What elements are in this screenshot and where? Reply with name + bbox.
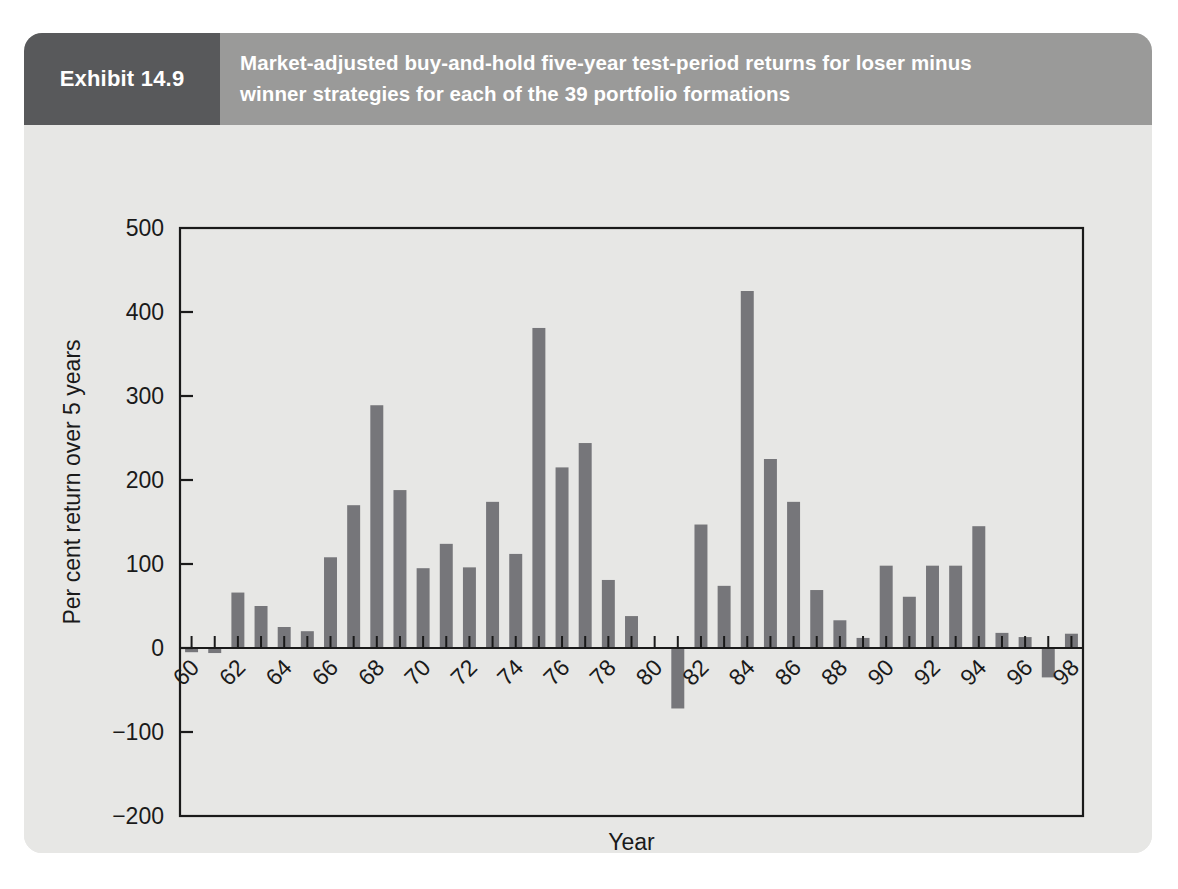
y-tick-label: 100 (126, 551, 164, 577)
x-tick-label-80: 80 (631, 654, 667, 690)
bar-92 (926, 566, 939, 648)
bar-86 (787, 502, 800, 648)
exhibit-title-line-1: Market-adjusted buy-and-hold five-year t… (240, 47, 1120, 78)
x-tick-label-62: 62 (214, 654, 250, 690)
x-tick-label-74: 74 (492, 654, 529, 691)
exhibit-header: Exhibit 14.9 Market-adjusted buy-and-hol… (24, 33, 1152, 125)
x-tick-label-90: 90 (862, 654, 898, 690)
bar-84 (741, 291, 754, 648)
bar-73 (486, 502, 499, 648)
x-tick-label-64: 64 (260, 654, 297, 691)
bar-71 (440, 544, 453, 648)
bar-82 (694, 525, 707, 648)
bar-67 (347, 505, 360, 648)
x-tick-label-68: 68 (353, 654, 389, 690)
bar-69 (393, 490, 406, 648)
exhibit-card: Exhibit 14.9 Market-adjusted buy-and-hol… (24, 33, 1152, 853)
x-tick-label-76: 76 (538, 654, 574, 690)
chart-svg: 5004003002001000−100−200 606264666870727… (24, 125, 1152, 853)
bar-94 (972, 526, 985, 648)
x-tick-label-78: 78 (584, 654, 620, 690)
bar-77 (579, 443, 592, 648)
bar-chart: 5004003002001000−100−200 606264666870727… (24, 125, 1152, 853)
bar-72 (463, 567, 476, 648)
bar-93 (949, 566, 962, 648)
bar-74 (509, 554, 522, 648)
exhibit-number-badge: Exhibit 14.9 (24, 33, 220, 125)
bar-85 (764, 459, 777, 648)
y-tick-label: −100 (112, 719, 164, 745)
exhibit-number-label: Exhibit 14.9 (60, 66, 185, 92)
x-tick-label-96: 96 (1001, 654, 1037, 690)
bar-90 (880, 566, 893, 648)
y-tick-label: 0 (151, 635, 164, 661)
y-tick-label: 500 (126, 215, 164, 241)
exhibit-title: Market-adjusted buy-and-hold five-year t… (240, 47, 1120, 109)
y-tick-label: −200 (112, 803, 164, 829)
chart-y-tick-labels: 5004003002001000−100−200 (112, 215, 164, 829)
x-tick-label-92: 92 (909, 654, 945, 690)
x-tick-label-84: 84 (723, 654, 760, 691)
page-root: Exhibit 14.9 Market-adjusted buy-and-hol… (0, 0, 1178, 889)
y-tick-label: 300 (126, 383, 164, 409)
bar-76 (556, 467, 569, 648)
x-tick-label-70: 70 (399, 654, 435, 690)
plot-border (180, 228, 1083, 816)
x-axis-title: Year (608, 829, 655, 853)
x-tick-label-86: 86 (770, 654, 806, 690)
exhibit-title-line-2: winner strategies for each of the 39 por… (240, 78, 1120, 109)
y-tick-label: 400 (126, 299, 164, 325)
bar-75 (532, 328, 545, 648)
x-tick-label-88: 88 (816, 654, 852, 690)
x-tick-label-94: 94 (955, 654, 992, 691)
x-tick-label-66: 66 (307, 654, 343, 690)
y-tick-label: 200 (126, 467, 164, 493)
chart-axes-group (180, 228, 1083, 816)
chart-x-tick-labels: 6062646668707274767880828486889092949698 (168, 654, 1084, 691)
x-tick-label-60: 60 (168, 654, 204, 690)
bar-66 (324, 557, 337, 648)
chart-panel: 5004003002001000−100−200 606264666870727… (24, 125, 1152, 853)
y-axis-title: Per cent return over 5 years (59, 339, 85, 624)
x-tick-label-72: 72 (446, 654, 482, 690)
bar-68 (370, 405, 383, 648)
